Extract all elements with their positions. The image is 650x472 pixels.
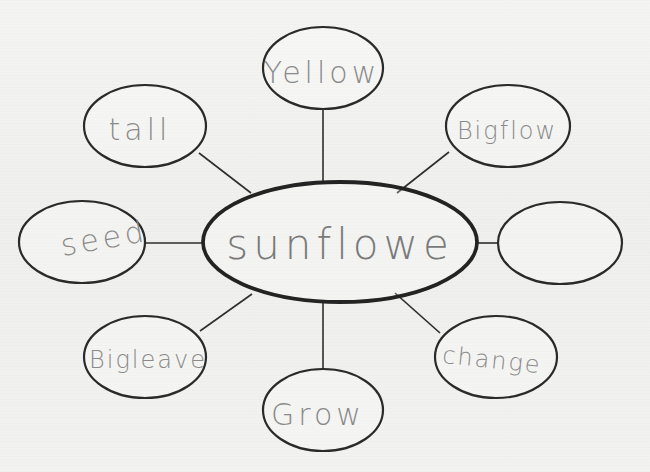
bubble-center <box>203 182 477 302</box>
bubble-bigleave <box>84 316 206 398</box>
concept-web-diagram <box>0 0 650 472</box>
connector-change <box>395 293 440 333</box>
bubble-tall <box>84 85 206 167</box>
connector-bigflow <box>397 152 449 193</box>
bubble-seed <box>19 201 145 283</box>
bubble-empty <box>498 202 622 284</box>
bubble-grow <box>263 369 383 451</box>
connector-bigleave <box>200 294 252 331</box>
connector-tall <box>199 153 251 193</box>
bubble-change <box>435 316 557 398</box>
bubble-yellow <box>263 27 383 109</box>
bubble-bigflow <box>446 85 570 167</box>
worksheet-paper: sunflowe Yellow Bigflow tall seed Biglea… <box>0 0 650 472</box>
